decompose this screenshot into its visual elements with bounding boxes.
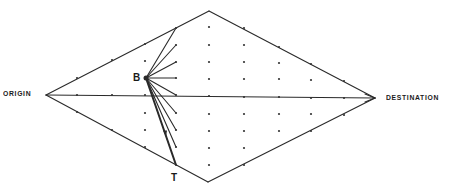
grid-point-dot [278, 78, 280, 80]
grid-point-dot [175, 94, 177, 96]
grid-point-dot [175, 61, 177, 63]
grid-point-dot [208, 95, 210, 97]
grid-point-dot [76, 77, 78, 79]
grid-point-dot [175, 112, 177, 114]
grid-point-dot [76, 111, 78, 113]
grid-point-dot [208, 61, 210, 63]
grid-point-dot [175, 146, 177, 148]
grid-point-dot [144, 112, 146, 114]
grid-point-dot [175, 44, 177, 46]
origin-label: ORIGIN [3, 89, 31, 98]
b-node-rays [146, 28, 176, 147]
grid-point-dot [76, 94, 78, 96]
grid-point-dot [175, 27, 177, 29]
grid-point-dot [243, 130, 245, 132]
grid-point-dot [243, 78, 245, 80]
grid-point-dot [144, 94, 146, 96]
node-b-label: B [133, 72, 141, 83]
grid-point-dot [208, 44, 210, 46]
grid-point-dot [278, 130, 280, 132]
grid-point-dot [243, 113, 245, 115]
grid-point-dot [310, 113, 312, 115]
grid-point-dot [310, 97, 312, 99]
grid-point-dot [310, 79, 312, 81]
edge-top-destination [209, 11, 375, 98]
grid-point-dot [208, 78, 210, 80]
grid-point-dot [243, 27, 245, 29]
axis-line [46, 95, 375, 98]
grid-point-dot [111, 94, 113, 96]
grid-point-dot [208, 164, 210, 166]
grid-point-dot [208, 147, 210, 149]
grid-point-dot [144, 60, 146, 62]
destination-label: DESTINATION [386, 93, 439, 102]
grid-point-dot [243, 44, 245, 46]
grid-point-dot [144, 146, 146, 148]
grid-point-dot [243, 147, 245, 149]
grid-point-dot [278, 96, 280, 98]
grid-point-dot [144, 43, 146, 45]
origin-destination-axis [46, 94, 375, 102]
grid-point-dot [310, 130, 312, 132]
edge-bottom-origin [46, 95, 208, 182]
grid-point-dot [343, 80, 345, 82]
grid-point-dot [243, 61, 245, 63]
grid-point-dot [208, 26, 210, 28]
ray-line [146, 45, 176, 78]
grid-point-dot [175, 129, 177, 131]
grid-point-dot [278, 62, 280, 64]
grid-point-dot [278, 46, 280, 48]
grid-point-dot [208, 130, 210, 132]
grid-point-dot [144, 129, 146, 131]
grid-point-dot [111, 129, 113, 131]
grid-point-dot [243, 164, 245, 166]
grid-point-dot [310, 63, 312, 65]
diamond-network-svg [0, 0, 449, 190]
grid-point-dot [343, 114, 345, 116]
grid-point-dot [111, 59, 113, 61]
edge-origin-top [46, 11, 209, 95]
node-t-label: T [171, 172, 178, 183]
grid-point-dot [175, 77, 177, 79]
grid-point-dot [243, 96, 245, 98]
grid-point-dot [278, 113, 280, 115]
edge-destination-bottom [208, 98, 375, 182]
arrow-tip-lower [365, 98, 375, 102]
network-diagram: ORIGIN DESTINATION B T [0, 0, 449, 190]
grid-point-dot [208, 113, 210, 115]
grid-point-dot [343, 97, 345, 99]
node-b-dot [144, 76, 149, 81]
